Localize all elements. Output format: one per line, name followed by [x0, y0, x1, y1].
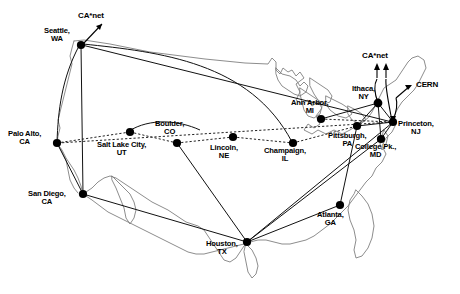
node-houston	[243, 238, 251, 246]
node-san-diego	[79, 190, 87, 198]
label-champaign: Champaign, IL	[264, 147, 306, 164]
label-houston: Houston, TX	[206, 240, 238, 257]
link-san-diego-houston	[83, 194, 247, 242]
arrow-canet-east-b-head	[383, 63, 389, 70]
label-college-pk: College Pk., MD	[355, 143, 396, 160]
label-canet-east: CA*net	[362, 52, 388, 60]
label-princeton: Princeton, NJ	[398, 120, 434, 137]
label-salt-lake: Salt Lake City, UT	[97, 141, 146, 158]
label-canet-west: CA*net	[78, 12, 104, 20]
label-lincoln: Lincoln, NE	[210, 144, 238, 161]
label-san-diego: San Diego, CA	[28, 190, 66, 207]
label-boulder: Boulder, CO	[155, 120, 184, 137]
node-boulder	[173, 139, 181, 147]
label-ann-arbor: Ann Arbor, MI	[291, 99, 328, 116]
node-lincoln	[229, 133, 237, 141]
label-palo-alto: Palo Alto, CA	[8, 130, 41, 147]
node-atlanta	[336, 201, 344, 209]
node-palo-alto	[53, 139, 61, 147]
label-cern: CERN	[416, 81, 438, 89]
link-seattle-champaign	[83, 44, 292, 142]
link-palo-alto-san-diego	[57, 143, 83, 194]
node-salt-lake	[126, 128, 134, 136]
label-seattle: Seattle, WA	[44, 27, 70, 44]
label-ithaca: Ithaca, NY	[352, 85, 375, 102]
node-ann-arbor	[317, 115, 325, 123]
external-arrows	[83, 24, 412, 123]
link-lincoln-champaign	[233, 137, 293, 143]
network-map-figure: Seattle, WA Palo Alto, CA San Diego, CA …	[0, 0, 460, 294]
arrow-canet-east-a-head	[374, 63, 380, 70]
link-seattle-san-diego	[81, 45, 83, 194]
node-princeton	[389, 118, 397, 126]
label-atlanta: Atlanta, GA	[317, 211, 344, 228]
node-seattle	[77, 41, 85, 49]
node-pittsburgh	[353, 122, 361, 130]
